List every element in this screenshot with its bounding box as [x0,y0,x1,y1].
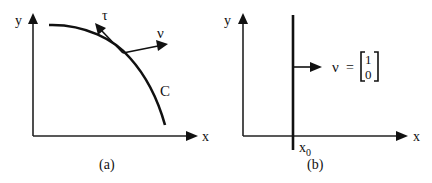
panel-b: y x x0 ν = 1 0 (b) [224,13,420,173]
caption-b: (b) [307,157,324,173]
normal-label-b: ν [332,59,339,75]
normal-label-a: ν [157,25,164,41]
tangent-vector [101,30,123,53]
vector-bottom-entry: 0 [365,67,372,82]
y-axis-arrow-icon [28,13,38,24]
normal-vector-a [123,46,158,53]
x0-label: x0 [299,140,311,158]
right-bracket [374,52,378,81]
curve-label-c: C [160,83,170,99]
normal-arrow-icon-b [310,62,322,72]
curve-c [49,25,165,125]
y-axis-arrow-icon [238,13,248,24]
y-axis-label-a: y [15,13,22,28]
x-axis-arrow-icon [396,131,408,141]
y-axis-label-b: y [224,13,231,28]
x-axis-label-a: x [202,129,209,144]
vector-top-entry: 1 [365,52,372,67]
panel-a: y x C τ ν (a) [15,8,209,173]
normal-arrow-icon-a [156,40,168,51]
figure-canvas: y x C τ ν (a) y x x0 ν = [0,0,432,183]
caption-a: (a) [99,157,115,173]
equals-sign: = [346,60,354,75]
x-axis-label-b: x [413,129,420,144]
tangent-label: τ [102,8,108,23]
x-axis-arrow-icon [186,131,198,141]
